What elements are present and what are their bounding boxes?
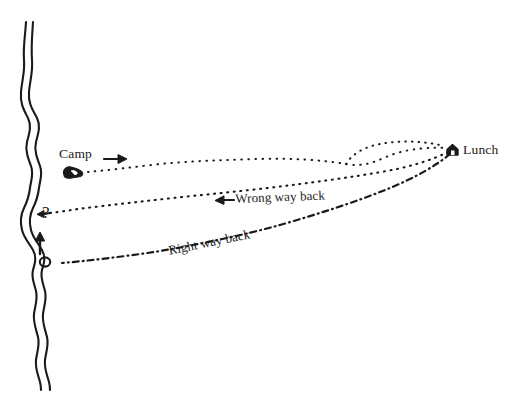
lunch-label: Lunch — [463, 142, 499, 158]
lunch-tent-icon — [447, 145, 458, 156]
wrong-way-back-label: Wrong way back — [235, 188, 325, 207]
sketch-map: Camp Lunch Wrong way back Right way back… — [0, 0, 508, 411]
arrow-right-icon — [104, 155, 127, 164]
outbound-route — [88, 148, 446, 172]
camp-label: Camp — [59, 146, 92, 162]
arrow-left-icon — [215, 196, 234, 205]
question-mark-label: ? — [42, 203, 50, 223]
camp-tent-icon — [63, 167, 82, 178]
